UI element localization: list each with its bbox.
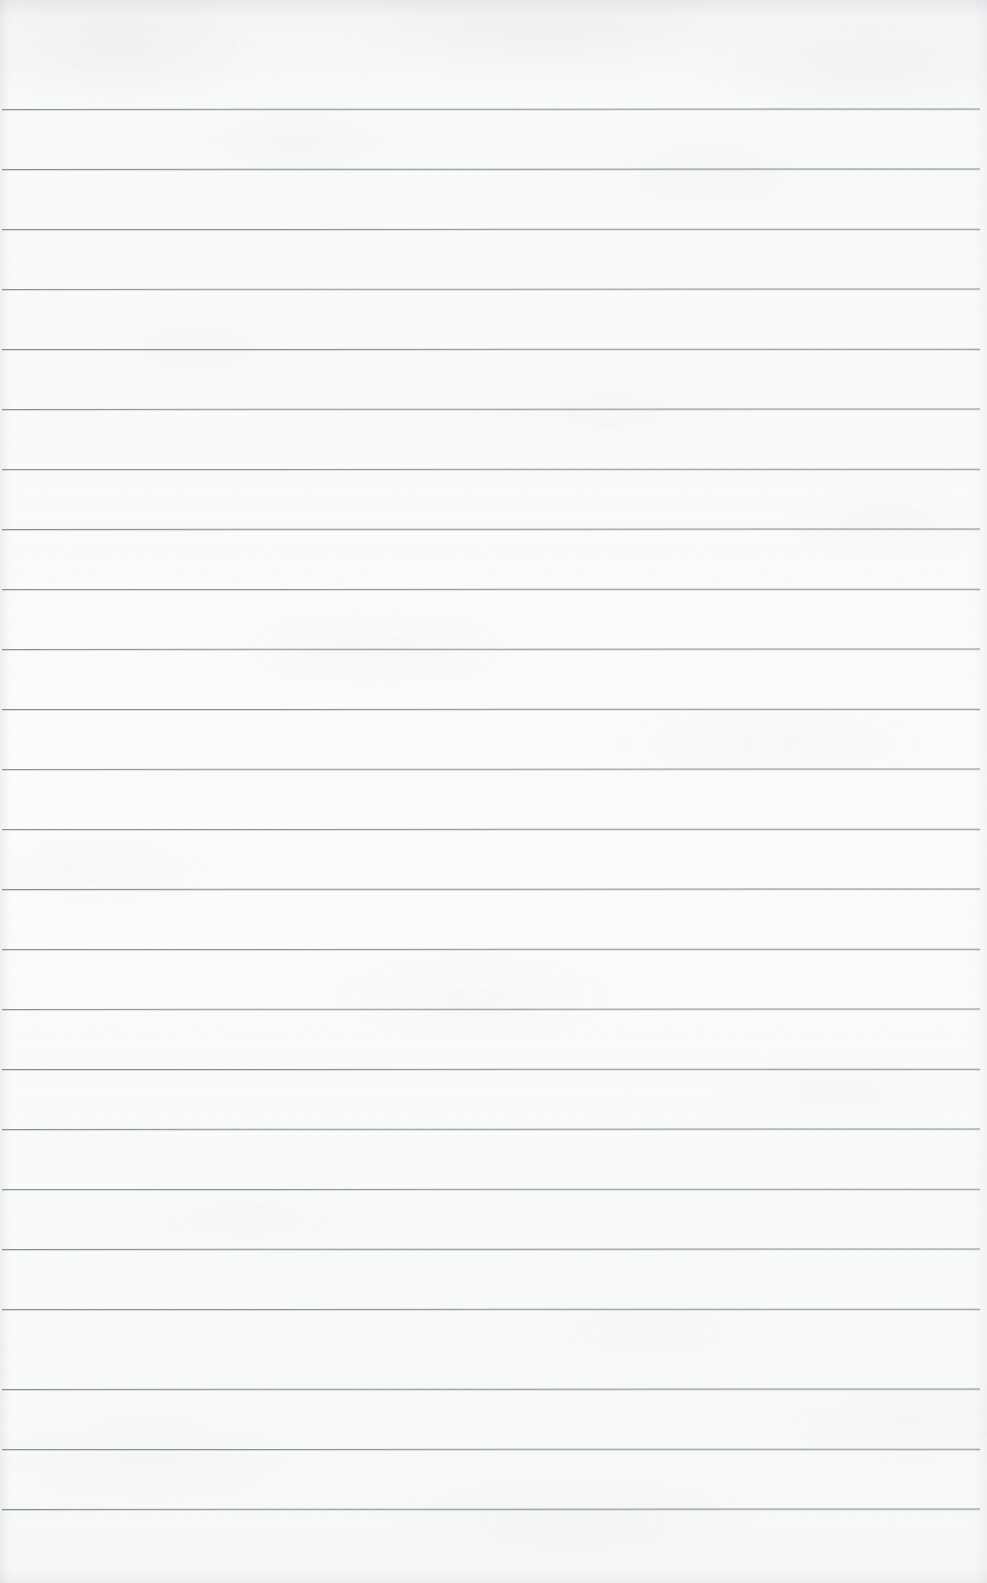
scanned-page	[0, 0, 987, 1583]
ruled-line	[2, 168, 980, 170]
ruled-line	[2, 469, 980, 470]
ruled-line	[2, 768, 980, 770]
ruled-line	[2, 1449, 980, 1450]
ruled-line	[2, 408, 980, 410]
ruled-lines-layer	[0, 0, 987, 1583]
ruled-line	[2, 1128, 980, 1130]
ruled-line	[2, 949, 980, 950]
ruled-line	[2, 1069, 980, 1070]
ruled-line	[2, 1508, 980, 1510]
ruled-line	[2, 349, 980, 350]
ruled-line	[2, 829, 980, 830]
ruled-line	[2, 648, 980, 650]
ruled-line	[2, 709, 980, 710]
ruled-line	[2, 528, 980, 530]
ruled-line	[2, 888, 980, 890]
ruled-line	[2, 1189, 980, 1190]
ruled-line	[2, 288, 980, 290]
ruled-line	[2, 589, 980, 590]
ruled-line	[2, 1309, 980, 1310]
ruled-line	[2, 1008, 980, 1010]
ruled-line	[2, 229, 980, 230]
ruled-line	[2, 1248, 980, 1250]
ruled-line	[2, 108, 980, 110]
ruled-line	[2, 1388, 980, 1390]
